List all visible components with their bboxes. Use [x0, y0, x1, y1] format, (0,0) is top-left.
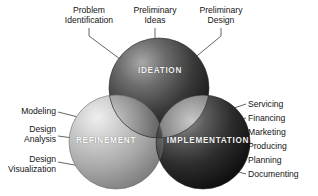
- callout-servicing: Servicing: [248, 99, 314, 109]
- callout-preliminary-design: Preliminary Design: [190, 5, 252, 25]
- callout-planning: Planning: [248, 155, 314, 165]
- venn-diagram: IDEATION REFINEMENT IMPLEMENTATION Probl…: [0, 0, 318, 196]
- callout-financing: Financing: [248, 113, 314, 123]
- callout-producing: Producing: [248, 141, 314, 151]
- callout-preliminary-ideas: Preliminary Ideas: [124, 5, 186, 25]
- callout-problem-identification: Problem Identification: [58, 5, 120, 25]
- circle-label-refinement: REFINEMENT: [54, 136, 158, 145]
- circle-label-ideation: IDEATION: [108, 66, 212, 75]
- callout-marketing: Marketing: [248, 127, 314, 137]
- callout-documenting: Documenting: [248, 169, 314, 179]
- callout-design-analysis: Design Analysis: [2, 124, 56, 144]
- callout-design-visualization: Design Visualization: [0, 154, 56, 174]
- callout-modeling: Modeling: [2, 106, 56, 116]
- circle-label-implementation: IMPLEMENTATION: [156, 136, 260, 145]
